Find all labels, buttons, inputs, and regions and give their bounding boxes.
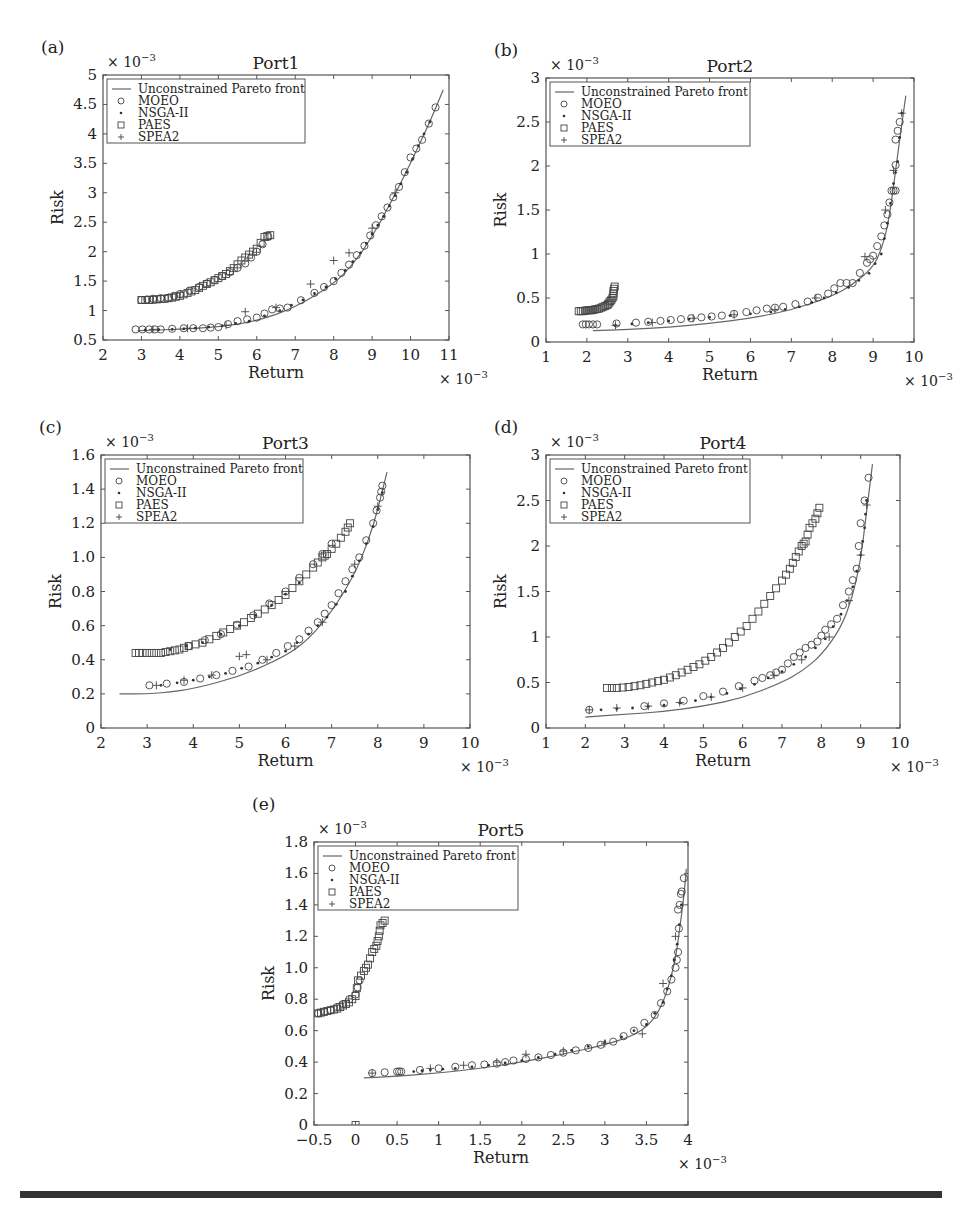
y-tick-label: 0.5 [73, 331, 97, 349]
y-tick-label: 0.6 [71, 617, 95, 635]
x-multiplier: × 10−3 [904, 371, 953, 389]
y-tick-label: 2.5 [516, 113, 540, 131]
y-tick-label: 5 [87, 66, 97, 84]
chart-title: Port2 [707, 56, 754, 76]
y-tick-label: 1 [530, 245, 540, 263]
y-tick-label: 0.8 [71, 583, 95, 601]
x-tick-label: 8 [373, 734, 383, 752]
chart-title: Port4 [700, 433, 747, 453]
y-tick-label: 1.2 [71, 514, 95, 532]
y-tick-label: 2.5 [73, 213, 97, 231]
x-tick-label: 2 [582, 348, 592, 366]
y-tick-label: 0.6 [284, 1022, 308, 1040]
x-axis-label: Return [257, 751, 313, 770]
series-spea2 [368, 932, 679, 1077]
y-tick-label: 1.5 [73, 272, 97, 290]
legend-entry: SPEA2 [349, 897, 390, 911]
series-paes [132, 520, 353, 657]
y-tick-label: 1.4 [284, 896, 308, 914]
x-tick-label: 0 [351, 1131, 361, 1149]
x-axis-label: Return [473, 1148, 529, 1167]
chart-port2: (b)Port2× 10−3× 10−31234567891000.511.52… [491, 40, 953, 389]
series-paes [575, 283, 618, 315]
chart-port3: (c)Port3× 10−3× 10−3234567891000.20.40.6… [39, 417, 509, 775]
chart-port5: (e)Port5× 10−3× 10−3−0.500.511.522.533.5… [252, 794, 727, 1172]
x-tick-label: 2 [98, 346, 108, 364]
series-spea2 [152, 502, 381, 689]
x-tick-label: 3 [142, 734, 152, 752]
y-tick-label: 2 [87, 243, 97, 261]
legend: Unconstrained Pareto frontMOEONSGA-IIPAE… [107, 79, 305, 144]
x-tick-label: 1 [541, 734, 551, 752]
x-tick-label: 1.5 [468, 1131, 492, 1149]
legend: Unconstrained Pareto frontMOEONSGA-IIPAE… [105, 459, 303, 524]
legend-entry: SPEA2 [581, 133, 622, 147]
x-tick-label: 5 [214, 346, 224, 364]
legend-entry: SPEA2 [581, 510, 622, 524]
x-tick-label: 8 [817, 734, 827, 752]
y-tick-label: 0 [530, 719, 540, 737]
series-paes [138, 232, 274, 304]
x-tick-label: 0.5 [385, 1131, 409, 1149]
x-multiplier: × 10−3 [678, 1154, 727, 1172]
y-tick-label: 1.4 [71, 480, 95, 498]
legend-entry: SPEA2 [138, 130, 179, 144]
panel-label: (d) [494, 417, 518, 437]
y-tick-label: 1.5 [516, 583, 540, 601]
panel-label: (e) [252, 794, 275, 814]
x-tick-label: 3 [620, 734, 630, 752]
y-tick-label: 3 [530, 69, 540, 87]
y-tick-label: 0.2 [284, 1085, 308, 1103]
x-tick-label: 5 [699, 734, 709, 752]
y-axis-label: Risk [491, 192, 510, 227]
series-paes [315, 917, 388, 1128]
chart-port4: (d)Port4× 10−3× 10−31234567891000.511.52… [491, 417, 939, 775]
x-tick-label: 6 [281, 734, 291, 752]
y-tick-label: 3.5 [73, 154, 97, 172]
x-tick-label: 3.5 [635, 1131, 659, 1149]
x-tick-label: 3 [137, 346, 147, 364]
x-tick-label: 4 [664, 348, 674, 366]
x-multiplier: × 10−3 [460, 757, 509, 775]
y-tick-label: 1.8 [284, 833, 308, 851]
x-tick-label: 3 [623, 348, 633, 366]
chart-title: Port5 [478, 820, 525, 840]
y-axis-label: Risk [491, 574, 510, 609]
y-tick-label: 0 [530, 333, 540, 351]
x-tick-label: 1 [434, 1131, 444, 1149]
x-tick-label: 6 [746, 348, 756, 366]
y-tick-label: 0.5 [516, 674, 540, 692]
x-multiplier: × 10−3 [439, 369, 488, 387]
x-tick-label: 11 [439, 346, 458, 364]
panel-label: (b) [494, 40, 518, 60]
y-multiplier: × 10−3 [105, 432, 154, 450]
legend: Unconstrained Pareto frontMOEONSGA-IIPAE… [318, 846, 518, 911]
panel-label: (c) [39, 417, 62, 437]
x-axis-label: Return [248, 363, 304, 382]
y-tick-label: 1.6 [71, 446, 95, 464]
x-tick-label: 9 [856, 734, 866, 752]
series-nsga-ii [600, 499, 868, 711]
y-tick-label: 1.2 [284, 927, 308, 945]
x-tick-label: 9 [868, 348, 878, 366]
x-tick-label: 7 [787, 348, 797, 366]
y-tick-label: 1.5 [516, 201, 540, 219]
x-tick-label: 5 [235, 734, 245, 752]
x-tick-label: 5 [705, 348, 715, 366]
chart-title: Port3 [262, 433, 309, 453]
y-multiplier: × 10−3 [107, 52, 156, 70]
y-tick-label: 0.2 [71, 685, 95, 703]
y-tick-label: 0.4 [71, 651, 95, 669]
x-tick-label: 2 [581, 734, 591, 752]
x-tick-label: 1 [541, 348, 551, 366]
x-tick-label: 10 [401, 346, 420, 364]
y-tick-label: 1 [530, 628, 540, 646]
y-tick-label: 1.6 [284, 864, 308, 882]
series-nsga-ii [412, 903, 682, 1072]
y-tick-label: 2 [530, 157, 540, 175]
x-tick-label: 10 [890, 734, 909, 752]
y-tick-label: 4.5 [73, 95, 97, 113]
x-tick-label: 2 [517, 1131, 527, 1149]
y-tick-label: 3 [87, 184, 97, 202]
x-tick-label: 2.5 [551, 1131, 575, 1149]
